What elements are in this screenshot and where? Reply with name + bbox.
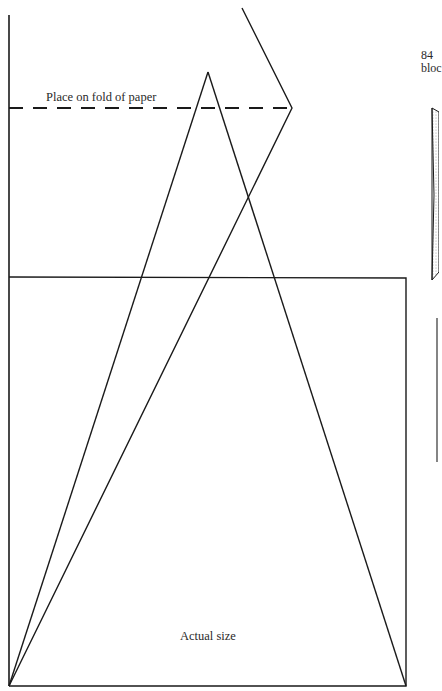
base-rectangle bbox=[9, 277, 406, 686]
stippled-shape bbox=[432, 108, 439, 280]
page-text-fragment: bloc bbox=[421, 62, 442, 75]
triangle-left-edge bbox=[9, 72, 208, 686]
fold-instruction-label: Place on fold of paper bbox=[44, 90, 158, 105]
triangle-right-edge bbox=[208, 72, 406, 686]
zigzag-line bbox=[9, 8, 292, 686]
actual-size-label: Actual size bbox=[180, 629, 236, 644]
